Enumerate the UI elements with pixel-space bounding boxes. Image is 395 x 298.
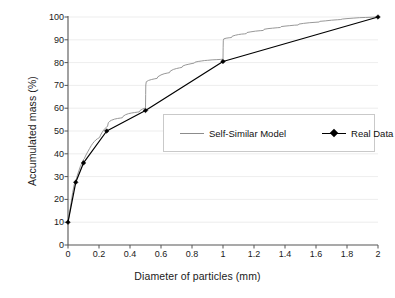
y-axis-label: Accumulated mass (%) bbox=[26, 31, 38, 231]
x-axis-label: Diameter of particles (mm) bbox=[0, 270, 395, 282]
data-point-marker bbox=[66, 220, 71, 225]
chart-figure: 0102030405060708090100 00.20.40.60.811.2… bbox=[0, 0, 395, 298]
legend-label-real-data: Real Data bbox=[351, 128, 393, 139]
legend-entry-real-data: Real Data bbox=[322, 128, 393, 139]
legend-label-model: Self-Similar Model bbox=[209, 128, 286, 139]
legend-line-icon-model bbox=[180, 128, 204, 138]
data-point-marker bbox=[376, 15, 381, 20]
legend-line-marker-icon-real-data bbox=[322, 128, 346, 138]
x-axis-tick-labels: 00.20.40.60.811.21.41.61.82 bbox=[0, 249, 395, 265]
legend-entry-self-similar-model: Self-Similar Model bbox=[180, 128, 286, 139]
chart-legend: Self-Similar Model Real Data bbox=[163, 114, 375, 152]
x-tick-label: 2 bbox=[358, 249, 395, 259]
y-tick-label: 100 bbox=[28, 12, 64, 22]
